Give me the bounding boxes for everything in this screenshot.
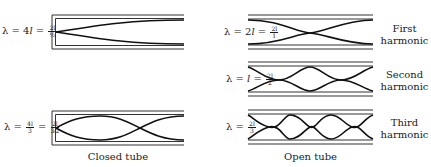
closed-tube-caption: Closed tube <box>52 151 184 162</box>
fraction-denominator: 2 <box>268 80 272 86</box>
open-tube-caption: Open tube <box>248 151 373 162</box>
lambda-prefix: λ = 4 <box>2 25 29 36</box>
lambda-prefix: λ = <box>226 121 244 132</box>
closed-fundamental-wavelength-label: λ = 4l = 2l ½ <box>2 25 57 39</box>
first-harmonic-label: First harmonic <box>378 23 431 46</box>
lambda-prefix: λ = <box>226 73 244 84</box>
length-symbol: l <box>247 73 250 84</box>
closed-tube-third-harmonic <box>52 111 184 145</box>
second-harmonic-label: Second harmonic <box>378 69 431 92</box>
fraction: 2l 1 <box>270 26 278 40</box>
fraction-denominator: ½ <box>49 32 55 38</box>
equals-sign: = <box>253 73 261 84</box>
fraction: 2l 3⁄2 <box>51 121 60 135</box>
equals-sign: = <box>36 25 44 36</box>
fraction: 2l 3 <box>248 121 256 135</box>
length-symbol: l <box>251 26 254 37</box>
fraction: 2l 2 <box>266 73 274 87</box>
harmonic-label-line2: harmonic <box>378 35 431 47</box>
length-symbol: l <box>29 25 32 36</box>
harmonic-label-line1: Second <box>378 69 431 81</box>
fraction: 4l 3 <box>26 121 34 135</box>
fraction-denominator: 3 <box>250 128 254 134</box>
fraction-denominator: 1 <box>272 33 276 39</box>
fraction-denominator: 3 <box>28 128 32 134</box>
lambda-prefix: λ = <box>4 121 22 132</box>
open-second-harmonic-wavelength-label: λ = l = 2l 2 <box>226 73 275 87</box>
closed-tube-third-harmonic-wave <box>56 116 184 140</box>
third-harmonic-label: Third harmonic <box>378 117 431 140</box>
equals-sign: = <box>258 26 266 37</box>
harmonic-label-line1: First <box>378 23 431 35</box>
open-tube-third-harmonic-wave <box>248 115 373 139</box>
harmonic-label-line2: harmonic <box>378 81 431 93</box>
equals-sign: = <box>38 121 46 132</box>
standing-wave-diagram <box>0 0 431 167</box>
fraction: 2l ½ <box>48 25 56 39</box>
open-first-harmonic-wavelength-label: λ = 2l = 2l 1 <box>224 26 279 40</box>
lambda-prefix: λ = 2 <box>224 26 251 37</box>
closed-tube-fundamental-wave <box>56 20 184 44</box>
harmonic-label-line2: harmonic <box>378 129 431 141</box>
closed-third-harmonic-wavelength-label: λ = 4l 3 = 2l 3⁄2 <box>4 121 60 135</box>
harmonic-label-line1: Third <box>378 117 431 129</box>
open-third-harmonic-wavelength-label: λ = 2l 3 <box>226 121 257 135</box>
fraction-denominator: 3⁄2 <box>51 128 60 134</box>
